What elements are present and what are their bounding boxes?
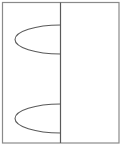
lower-half-ellipse: [15, 104, 61, 133]
diagram-drawing: [0, 0, 122, 149]
upper-half-ellipse: [15, 25, 61, 54]
diagram-canvas: [0, 0, 122, 149]
